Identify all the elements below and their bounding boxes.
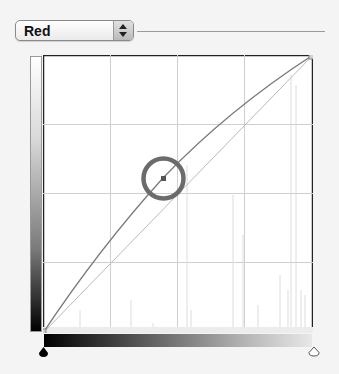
curves-graph[interactable]	[43, 55, 313, 333]
control-point-mid[interactable]	[161, 176, 166, 181]
control-point-white[interactable]	[309, 55, 313, 59]
channel-dropdown-value: Red	[24, 23, 50, 39]
up-down-stepper-icon[interactable]	[113, 21, 133, 40]
histogram-base	[43, 327, 313, 333]
black-triangle-icon[interactable]	[38, 347, 49, 358]
channel-dropdown[interactable]: Red	[15, 20, 134, 41]
input-gradient-bar	[44, 334, 312, 347]
white-triangle-icon[interactable]	[308, 346, 320, 357]
separator-line	[137, 31, 325, 32]
output-gradient-bar	[30, 56, 42, 332]
control-point-black[interactable]	[43, 329, 46, 333]
